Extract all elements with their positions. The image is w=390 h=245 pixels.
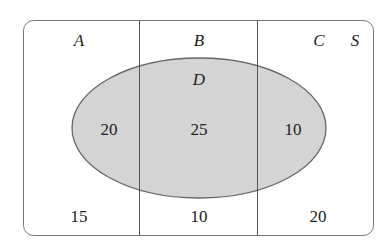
region-b-not-d: 10 bbox=[191, 207, 208, 226]
label-s: S bbox=[351, 31, 360, 50]
label-b: B bbox=[194, 31, 205, 50]
label-c: C bbox=[313, 31, 325, 50]
region-c-and-d: 10 bbox=[285, 120, 302, 139]
region-c-not-d: 20 bbox=[310, 207, 327, 226]
region-a-not-d: 15 bbox=[71, 207, 88, 226]
venn-diagram: A B C S D 20 25 10 15 10 20 bbox=[0, 0, 390, 245]
region-b-and-d: 25 bbox=[191, 120, 208, 139]
region-a-and-d: 20 bbox=[101, 120, 118, 139]
label-a: A bbox=[73, 31, 85, 50]
label-d: D bbox=[192, 70, 206, 89]
